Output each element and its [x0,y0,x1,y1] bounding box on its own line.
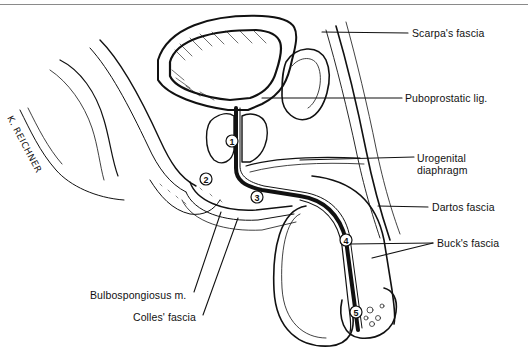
prostatic-urethra [236,108,358,330]
marker-3: 3 [251,191,263,203]
prostate-right [242,114,267,162]
label-urogenital-diaphragm-line2: diaphragm [417,164,468,176]
label-puboprostatic-lig: Puboprostatic lig. [405,92,487,104]
label-bulbospongiosus-m: Bulbospongiosus m. [90,289,186,301]
label-dartos-fascia: Dartos fascia [432,201,495,213]
label-urogenital-diaphragm-line1: Urogenital [417,152,466,164]
label-colles-fascia: Colles' fascia [133,311,196,323]
svg-text:2: 2 [203,175,208,185]
marker-1: 1 [226,135,238,147]
abdominal-wall-outer [336,26,390,240]
bladder-inner-wall [170,30,281,100]
label-scarpas-fascia: Scarpa's fascia [412,27,484,39]
pubic-symphysis [282,49,329,120]
bladder-outer-wall [158,16,296,110]
marker-2: 2 [200,173,212,185]
svg-text:1: 1 [229,137,234,147]
label-bucks-fascia: Buck's fascia [437,237,499,249]
marker-5: 5 [350,306,362,318]
anatomy-illustration: 1 2 3 4 5 [0,0,528,360]
bulbospongiosus [190,182,292,210]
svg-text:3: 3 [254,193,259,203]
leader-lines [194,32,433,315]
svg-text:5: 5 [353,308,358,318]
penis-shaft-lower [300,200,351,332]
glans-texture [364,304,384,327]
svg-text:4: 4 [343,236,348,246]
marker-4: 4 [340,234,352,246]
